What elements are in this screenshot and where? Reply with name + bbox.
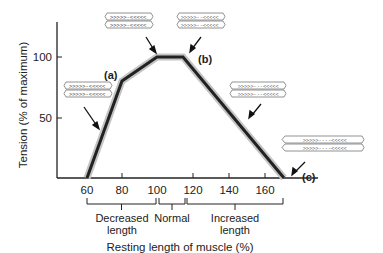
region-label-decreased-1: Decreased — [95, 212, 148, 224]
bracket-decreased — [87, 198, 156, 210]
point-label-b: (b) — [198, 53, 212, 65]
sarcomere-icon-peak-left — [105, 13, 153, 28]
bracket-increased — [187, 198, 283, 210]
x-tick-label-140: 140 — [219, 184, 238, 196]
sarcomere-icon-stretched: >>>>>---<<<<< >>>>>---<<<<< — [230, 82, 286, 97]
arrow-icon-stretched — [249, 104, 261, 118]
svg-text:>>>>>---<<<<<: >>>>>---<<<<< — [238, 83, 279, 89]
sarcomere-icon-c: >>>>>----<<<<< >>>>>----<<<<< — [282, 136, 364, 151]
svg-text:>>>>>---<<<<<: >>>>>---<<<<< — [238, 91, 279, 97]
region-label-increased-2: length — [220, 224, 250, 236]
length-tension-chart: >>>>>-<<<<< >>>>>-<<<<< 100 50 60 80 100… — [0, 0, 383, 253]
region-label-decreased-2: length — [107, 224, 137, 236]
region-label-increased-1: Increased — [211, 212, 259, 224]
x-axis-title: Resting length of muscle (%) — [106, 241, 253, 253]
sarcomere-icon-a — [64, 82, 112, 97]
arrow-icon-a — [84, 107, 99, 129]
sarcomere-icon-peak-right: >>>>>--<<<<< >>>>>--<<<<< — [177, 13, 225, 28]
y-tick-label-50: 50 — [39, 112, 52, 124]
point-label-c: (c) — [302, 171, 316, 183]
x-tick-label-100: 100 — [147, 184, 166, 196]
svg-text:>>>>>----<<<<<: >>>>>----<<<<< — [303, 137, 347, 143]
point-label-a: (a) — [104, 69, 118, 81]
x-tick-label-80: 80 — [116, 184, 129, 196]
x-tick-label-160: 160 — [255, 184, 274, 196]
arrow-icon-peak-left — [146, 37, 156, 53]
x-tick-label-60: 60 — [81, 184, 94, 196]
x-tick-label-120: 120 — [183, 184, 202, 196]
svg-text:>>>>>--<<<<<: >>>>>--<<<<< — [181, 14, 218, 20]
y-tick-label-100: 100 — [33, 51, 52, 63]
svg-text:>>>>>--<<<<<: >>>>>--<<<<< — [181, 22, 218, 28]
y-axis-title: Tension (% of maximum) — [17, 42, 29, 169]
svg-text:>>>>>----<<<<<: >>>>>----<<<<< — [303, 145, 347, 151]
arrow-icon-peak-right — [190, 37, 201, 52]
bracket-normal — [159, 198, 185, 210]
region-label-normal: Normal — [154, 212, 189, 224]
